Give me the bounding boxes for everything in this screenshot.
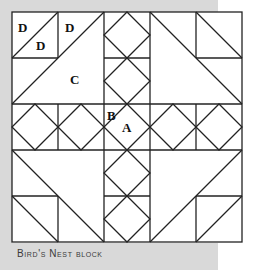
label-b: B <box>107 108 116 123</box>
label-d-bottom: D <box>36 38 45 53</box>
label-d-right: D <box>65 20 74 35</box>
label-a: A <box>122 120 132 135</box>
birds-nest-block-diagram: D D D C B A <box>0 0 259 270</box>
label-c: C <box>70 72 79 87</box>
figure-caption: Bird's Nest block <box>17 248 103 259</box>
label-d-top: D <box>18 20 27 35</box>
